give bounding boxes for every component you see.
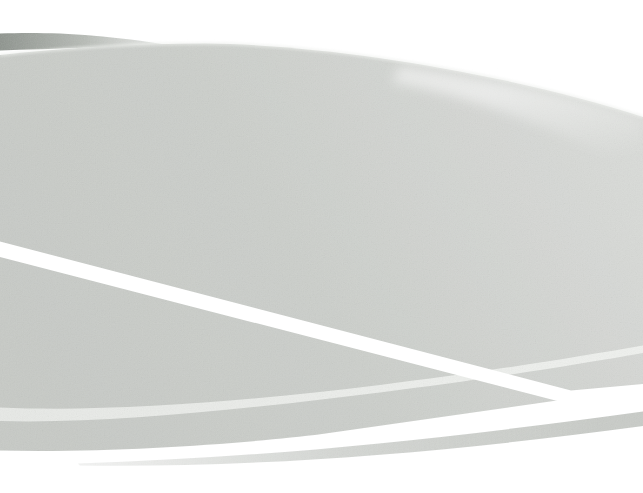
wallpaper-canvas: [0, 0, 643, 493]
abstract-swoosh-graphic: [0, 0, 643, 493]
